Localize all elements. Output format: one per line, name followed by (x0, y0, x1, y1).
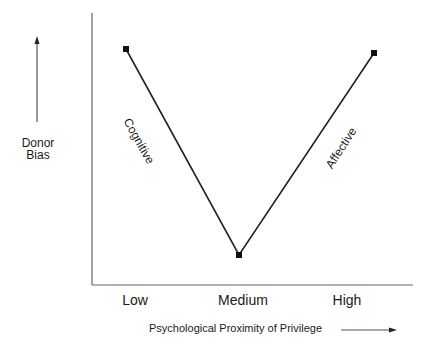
data-point-medium (236, 252, 242, 258)
x-direction-arrow-icon (341, 328, 397, 333)
x-tick-medium: Medium (218, 292, 268, 308)
y-axis-label: Donor Bias (12, 137, 64, 161)
x-axis-label: Psychological Proximity of Privilege (149, 322, 322, 334)
data-point-low (123, 46, 129, 52)
data-point-high (371, 50, 377, 56)
y-direction-arrow-icon (35, 36, 40, 122)
x-tick-low: Low (122, 292, 148, 308)
y-axis-label-line-2: Bias (12, 149, 64, 161)
x-tick-high: High (333, 292, 362, 308)
chart-canvas (0, 0, 426, 348)
